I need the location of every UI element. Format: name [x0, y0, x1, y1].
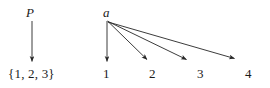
source-label-a: a	[103, 6, 110, 19]
diagram-canvas: P {1, 2, 3} a 1 2 3 4	[0, 0, 270, 88]
target-label-3: 3	[197, 67, 204, 80]
arrow-a-to-3	[108, 22, 187, 60]
target-label-2: 2	[149, 67, 156, 80]
target-label-4: 4	[245, 67, 252, 80]
target-label-1: 1	[103, 67, 110, 80]
arrow-a-to-2	[108, 21, 148, 60]
target-label-set-123: {1, 2, 3}	[8, 67, 55, 80]
source-label-p: P	[26, 6, 34, 19]
